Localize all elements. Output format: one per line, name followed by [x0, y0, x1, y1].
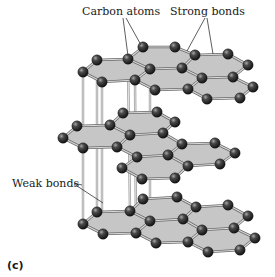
carbon-atom-icon: [243, 211, 253, 221]
carbon-atom-icon: [78, 67, 88, 77]
carbon-atom-icon: [138, 194, 148, 204]
carbon-atom-icon: [183, 84, 193, 94]
carbon-atom-icon: [125, 130, 135, 140]
carbon-atom-icon: [118, 108, 128, 118]
carbon-atoms-leader-line: [126, 18, 141, 45]
carbon-atom-icon: [72, 121, 82, 131]
carbon-atom-icon: [197, 73, 207, 83]
carbon-atom-icon: [223, 49, 233, 59]
carbon-atom-icon: [78, 219, 88, 229]
carbon-atom-icon: [98, 229, 108, 239]
carbon-atom-icon: [150, 85, 160, 95]
carbon-atom-icon: [183, 161, 193, 171]
carbon-atom-icon: [170, 42, 180, 52]
carbon-atom-icon: [145, 64, 155, 74]
carbon-atom-icon: [210, 138, 220, 148]
carbon-atom-icon: [230, 148, 240, 158]
carbon-atom-icon: [178, 214, 188, 224]
carbon-atom-icon: [177, 63, 187, 73]
carbon-atom-icon: [105, 120, 115, 130]
carbon-atoms-label: Carbon atoms: [82, 5, 161, 18]
carbon-atom-icon: [163, 150, 173, 160]
carbon-atom-icon: [152, 107, 162, 117]
carbon-atom-icon: [197, 225, 207, 235]
graphite-diagram: Carbon atoms Strong bonds Weak bonds (c): [0, 0, 275, 277]
carbon-atom-icon: [228, 72, 238, 82]
carbon-atom-icon: [215, 159, 225, 169]
carbon-atom-icon: [131, 228, 141, 238]
carbon-atom-icon: [248, 82, 258, 92]
carbon-atom-icon: [229, 223, 239, 233]
strong-bonds-label: Strong bonds: [170, 5, 245, 18]
layer-middle: [58, 107, 240, 184]
carbon-atom-icon: [145, 216, 155, 226]
carbon-atom-icon: [92, 55, 102, 65]
carbon-atom-icon: [58, 133, 68, 143]
carbon-atom-icon: [92, 207, 102, 217]
carbon-atom-icon: [170, 117, 180, 127]
carbon-atom-icon: [125, 206, 135, 216]
carbon-atom-icon: [191, 202, 201, 212]
carbon-atom-icon: [137, 174, 147, 184]
carbon-atom-icon: [132, 152, 142, 162]
carbon-atom-icon: [78, 143, 88, 153]
carbon-atom-icon: [202, 94, 212, 104]
carbon-atom-icon: [223, 200, 233, 210]
graphene-layers: [58, 42, 260, 257]
carbon-atom-icon: [243, 60, 253, 70]
carbon-atom-icon: [97, 77, 107, 87]
carbon-atom-icon: [183, 237, 193, 247]
carbon-atom-icon: [172, 192, 182, 202]
carbon-atom-icon: [151, 238, 161, 248]
carbon-atoms-leader-line: [123, 18, 128, 56]
carbon-atom-icon: [158, 128, 168, 138]
strong-bonds-leader-line: [207, 18, 213, 54]
carbon-atom-icon: [117, 163, 127, 173]
panel-label: (c): [7, 259, 24, 272]
carbon-atom-icon: [203, 247, 213, 257]
weak-bonds-label: Weak bonds: [12, 177, 79, 190]
carbon-atom-icon: [235, 93, 245, 103]
carbon-atom-icon: [250, 233, 260, 243]
carbon-atom-icon: [177, 139, 187, 149]
strong-bonds-leader-line: [187, 18, 205, 51]
carbon-atom-icon: [190, 50, 200, 60]
carbon-atom-icon: [112, 142, 122, 152]
carbon-atom-icon: [235, 245, 245, 255]
carbon-atom-icon: [130, 75, 140, 85]
layer-bottom: [78, 192, 260, 257]
carbon-atom-icon: [138, 42, 148, 52]
carbon-atom-icon: [170, 173, 180, 183]
layer-top: [78, 42, 258, 104]
